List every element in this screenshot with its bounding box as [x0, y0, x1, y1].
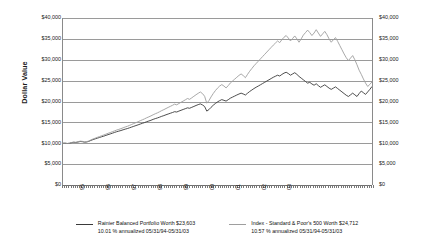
- legend-label-line2: 10.57 % annualized 05/31/94-05/31/03: [251, 227, 358, 235]
- x-tick-label: 96: [105, 184, 111, 190]
- y-tick-label: $25,000: [375, 78, 409, 83]
- x-tick-mark: [66, 185, 67, 188]
- x-tick-mark: [250, 185, 251, 188]
- x-tick-mark: [207, 185, 208, 188]
- x-tick-mark: [367, 185, 368, 188]
- y-tick-label: $35,000: [27, 36, 61, 41]
- y-axis-right-ticks: $0$5,000$10,000$15,000$20,000$25,000$30,…: [375, 0, 409, 185]
- x-tick-label: 97: [131, 184, 137, 190]
- legend-item-rainier-balanced-portfolio[interactable]: Rainier Balanced Portfolio Worth $23,603…: [76, 219, 195, 245]
- x-tick-mark: [116, 185, 117, 188]
- x-axis: 959697989900010203: [62, 185, 373, 213]
- x-tick-mark: [274, 185, 275, 188]
- chart-container: Dollar Value $0$5,000$10,000$15,000$20,0…: [0, 0, 434, 249]
- y-tick-label: $0: [27, 182, 61, 187]
- x-tick-mark: [302, 185, 303, 188]
- x-tick-mark: [269, 185, 270, 188]
- x-tick-label: 02: [261, 184, 267, 190]
- x-tick-mark: [118, 185, 119, 188]
- x-tick-mark: [120, 185, 121, 188]
- x-tick-mark: [259, 185, 260, 188]
- x-tick-mark: [243, 185, 244, 188]
- x-tick-mark: [142, 185, 143, 188]
- x-tick-mark: [218, 185, 219, 188]
- legend-label: Rainier Balanced Portfolio Worth $23,603…: [98, 219, 195, 235]
- y-tick-label: $10,000: [375, 141, 409, 146]
- y-tick-label: $5,000: [375, 161, 409, 166]
- y-tick-label: $20,000: [375, 99, 409, 104]
- x-tick-label: 95: [79, 184, 85, 190]
- y-tick-label: $30,000: [375, 57, 409, 62]
- x-tick-mark: [343, 185, 344, 188]
- x-tick-mark: [127, 185, 128, 188]
- data-line: [63, 30, 372, 144]
- x-tick-mark: [293, 185, 294, 188]
- series-lines: [63, 18, 372, 185]
- x-tick-mark: [181, 185, 182, 188]
- x-tick-mark: [75, 185, 76, 188]
- x-tick-mark: [94, 185, 95, 188]
- x-tick-mark: [101, 185, 102, 188]
- x-tick-mark: [341, 185, 342, 188]
- x-tick-label: 03: [286, 184, 292, 190]
- x-tick-mark: [88, 185, 89, 188]
- x-tick-mark: [174, 185, 175, 188]
- x-tick-mark: [62, 185, 63, 188]
- y-tick-label: $5,000: [27, 161, 61, 166]
- legend-item-sp500-index[interactable]: Index - Standard & Poor's 500 Worth $24,…: [229, 219, 358, 245]
- x-tick-mark: [77, 185, 78, 188]
- chart-legend: Rainier Balanced Portfolio Worth $23,603…: [0, 219, 434, 245]
- x-tick-mark: [226, 185, 227, 188]
- x-tick-mark: [271, 185, 272, 188]
- x-tick-mark: [92, 185, 93, 188]
- y-tick-label: $15,000: [375, 120, 409, 125]
- x-tick-mark: [64, 185, 65, 188]
- x-tick-mark: [86, 185, 87, 188]
- y-tick-label: $20,000: [27, 99, 61, 104]
- plot-area: [62, 18, 373, 185]
- x-tick-mark: [198, 185, 199, 188]
- x-tick-label: 98: [157, 184, 163, 190]
- x-tick-mark: [354, 185, 355, 188]
- legend-label-line2: 10.01 % annualized 05/31/94-05/31/03: [98, 227, 195, 235]
- legend-color-swatch: [76, 224, 93, 225]
- x-tick-mark: [373, 185, 374, 188]
- x-tick-mark: [364, 185, 365, 188]
- y-tick-label: $40,000: [375, 15, 409, 20]
- legend-label: Index - Standard & Poor's 500 Worth $24,…: [251, 219, 358, 235]
- x-tick-mark: [267, 185, 268, 188]
- x-tick-mark: [112, 185, 113, 188]
- x-tick-mark: [144, 185, 145, 188]
- x-tick-mark: [230, 185, 231, 188]
- x-tick-mark: [313, 185, 314, 188]
- x-tick-mark: [164, 185, 165, 188]
- x-tick-mark: [310, 185, 311, 188]
- x-tick-mark: [256, 185, 257, 188]
- y-tick-label: $0: [375, 182, 409, 187]
- x-tick-mark: [222, 185, 223, 188]
- x-tick-mark: [90, 185, 91, 188]
- x-tick-mark: [254, 185, 255, 188]
- x-tick-mark: [151, 185, 152, 188]
- x-tick-mark: [295, 185, 296, 188]
- x-tick-mark: [323, 185, 324, 188]
- x-tick-mark: [166, 185, 167, 188]
- y-tick-label: $15,000: [27, 120, 61, 125]
- x-tick-mark: [122, 185, 123, 188]
- x-tick-mark: [71, 185, 72, 188]
- x-tick-mark: [97, 185, 98, 188]
- x-tick-mark: [362, 185, 363, 188]
- x-tick-mark: [347, 185, 348, 188]
- x-tick-mark: [146, 185, 147, 188]
- x-tick-mark: [202, 185, 203, 188]
- x-tick-mark: [345, 185, 346, 188]
- x-tick-mark: [371, 185, 372, 188]
- x-tick-mark: [148, 185, 149, 188]
- x-tick-mark: [68, 185, 69, 188]
- x-tick-mark: [176, 185, 177, 188]
- x-tick-mark: [153, 185, 154, 188]
- x-tick-mark: [351, 185, 352, 188]
- x-tick-mark: [280, 185, 281, 188]
- x-tick-mark: [356, 185, 357, 188]
- x-tick-mark: [338, 185, 339, 188]
